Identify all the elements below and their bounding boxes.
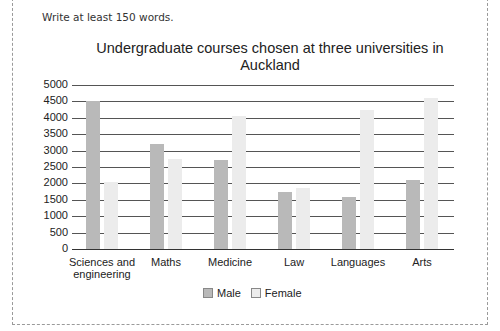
gridline <box>72 167 454 168</box>
y-tick-label: 0 <box>10 242 68 254</box>
bar-female <box>424 98 438 249</box>
bar-female <box>232 116 246 249</box>
y-tick-label: 500 <box>10 226 68 238</box>
y-tick-label: 2000 <box>10 176 68 188</box>
y-tick-label: 3000 <box>10 144 68 156</box>
bar-male <box>150 144 164 249</box>
gridline <box>72 233 454 234</box>
x-tick-label: Arts <box>377 256 467 268</box>
y-tick-label: 1500 <box>10 193 68 205</box>
gridline <box>72 85 454 86</box>
y-tick-label: 1000 <box>10 209 68 221</box>
gridline <box>72 200 454 201</box>
gridline <box>72 216 454 217</box>
legend-swatch-male <box>203 288 213 298</box>
bar-male <box>86 101 100 249</box>
gridline <box>72 249 454 250</box>
y-tick-label: 4500 <box>10 94 68 106</box>
gridline <box>72 101 454 102</box>
bar-male <box>342 197 356 249</box>
bar-male <box>214 160 228 249</box>
y-tick-label: 5000 <box>10 78 68 90</box>
y-tick-label: 4000 <box>10 111 68 123</box>
y-tick-label: 2500 <box>10 160 68 172</box>
gridline <box>72 183 454 184</box>
legend-item-male: Male <box>203 287 241 299</box>
y-tick-label: 3500 <box>10 127 68 139</box>
bar-female <box>360 110 374 249</box>
gridline <box>72 118 454 119</box>
bar-chart: 0500100015002000250030003500400045005000… <box>0 0 500 331</box>
gridline <box>72 134 454 135</box>
bar-female <box>296 188 310 249</box>
bar-female <box>168 159 182 249</box>
legend-label-female: Female <box>265 287 302 299</box>
legend-label-male: Male <box>217 287 241 299</box>
bar-female <box>104 182 118 249</box>
chart-legend: Male Female <box>203 287 312 299</box>
bar-male <box>406 180 420 249</box>
bar-male <box>278 192 292 249</box>
gridline <box>72 151 454 152</box>
legend-swatch-female <box>251 288 261 298</box>
legend-item-female: Female <box>251 287 302 299</box>
